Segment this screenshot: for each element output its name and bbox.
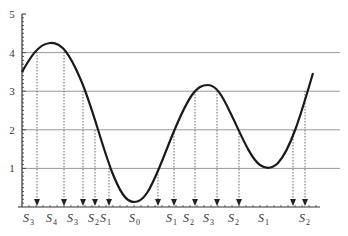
arrowhead-icon — [106, 199, 112, 206]
state-label-s2: S2 — [228, 211, 239, 227]
crossing-arrow — [80, 91, 86, 206]
y-tick-label: 5 — [9, 8, 15, 20]
y-axis: 12345 — [9, 8, 26, 207]
crossing-arrow — [106, 168, 112, 206]
state-label-s0: S0 — [129, 211, 140, 227]
signal-curve — [22, 43, 313, 202]
y-tick-label: 4 — [9, 47, 15, 59]
arrowhead-icon — [171, 199, 177, 206]
state-label-s3: S3 — [203, 211, 214, 227]
state-label-s1: S1 — [100, 211, 111, 227]
crossing-arrow — [214, 91, 220, 206]
crossing-arrows — [34, 52, 308, 206]
crossing-arrow — [192, 91, 198, 206]
x-axis — [18, 205, 320, 207]
arrowhead-icon — [34, 199, 40, 206]
arrowhead-icon — [302, 199, 308, 206]
state-label-s3: S3 — [23, 211, 34, 227]
arrowhead-icon — [290, 199, 296, 206]
state-label-s3: S3 — [67, 211, 78, 227]
arrowhead-icon — [192, 199, 198, 206]
state-label-s1: S1 — [166, 211, 177, 227]
arrowhead-icon — [92, 199, 98, 206]
y-tick-label: 2 — [9, 124, 15, 136]
arrowhead-icon — [236, 199, 242, 206]
y-tick-label: 1 — [9, 162, 15, 174]
state-label-s1: S1 — [258, 211, 269, 227]
gridlines — [22, 53, 340, 169]
quantization-diagram: 12345 S3S4S3S2S1S0S1S2S3S2S1S2 — [0, 0, 348, 236]
state-label-s2: S2 — [88, 211, 99, 227]
arrowhead-icon — [61, 199, 67, 206]
x-axis-labels: S3S4S3S2S1S0S1S2S3S2S1S2 — [23, 211, 310, 227]
arrowhead-icon — [80, 199, 86, 206]
y-tick-label: 3 — [9, 85, 15, 97]
crossing-arrow — [61, 52, 67, 206]
state-label-s2: S2 — [183, 211, 194, 227]
crossing-arrow — [34, 52, 40, 206]
arrowhead-icon — [155, 199, 161, 206]
state-label-s4: S4 — [46, 211, 57, 227]
state-label-s2: S2 — [299, 211, 310, 227]
arrowhead-icon — [214, 199, 220, 206]
